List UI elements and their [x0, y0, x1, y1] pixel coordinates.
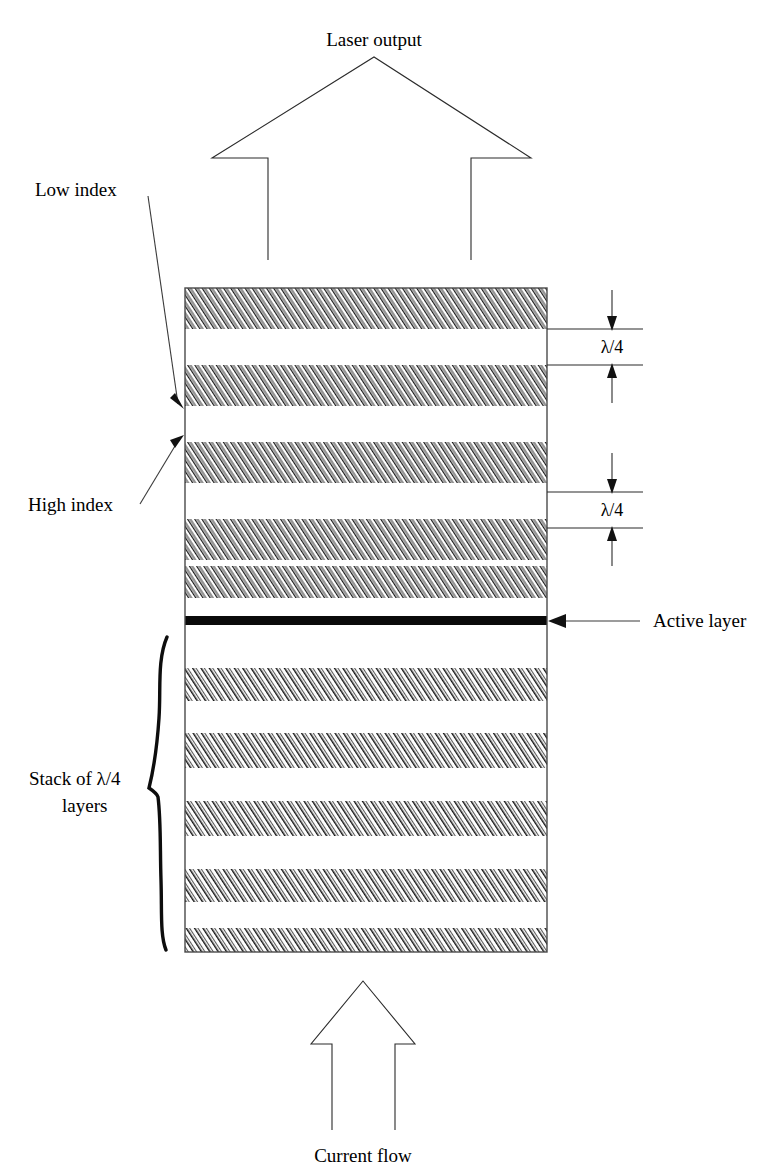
- layer-low-index: [185, 768, 547, 801]
- high-index-leader: [140, 435, 184, 504]
- low-index-leader: [148, 196, 184, 409]
- high-index-label: High index: [28, 494, 113, 515]
- lambda-quarter-dimension-bottom: λ/4: [547, 453, 643, 566]
- lambda-quarter-bottom-text: λ/4: [601, 500, 624, 520]
- layer-high-index: [185, 801, 547, 836]
- laser-output-label: Laser output: [326, 29, 422, 50]
- layer-low-index: [185, 625, 547, 668]
- stack-brace: [149, 637, 167, 950]
- layer-low-index: [185, 406, 547, 442]
- layer-low-index: [185, 836, 547, 869]
- layer-low-index: [185, 902, 547, 928]
- stack-label-line1: Stack of λ/4: [29, 768, 121, 789]
- layer-low-index: [185, 701, 547, 733]
- lambda-quarter-dimension-top: λ/4: [547, 290, 643, 403]
- mirror-stack: [185, 288, 547, 952]
- laser-output-arrow: [212, 57, 531, 260]
- layer-low-index: [185, 598, 547, 616]
- lambda-quarter-top-text: λ/4: [601, 337, 624, 357]
- layer-high-index: [185, 566, 547, 598]
- layer-high-index: [185, 519, 547, 560]
- active-layer-bar: [185, 616, 547, 625]
- dbr-laser-diagram: Laser output: [0, 0, 783, 1175]
- diagram-root: Laser output: [0, 0, 783, 1175]
- layer-high-index: [185, 365, 547, 406]
- layer-high-index: [185, 442, 547, 483]
- layer-high-index: [185, 288, 547, 329]
- active-layer-label: Active layer: [653, 610, 747, 631]
- layer-high-index: [185, 869, 547, 902]
- low-index-label: Low index: [35, 179, 117, 200]
- layer-high-index: [185, 928, 547, 952]
- layer-low-index: [185, 329, 547, 365]
- layer-low-index: [185, 483, 547, 519]
- stack-label-line2: layers: [62, 795, 107, 816]
- layer-high-index: [185, 668, 547, 701]
- current-flow-label: Current flow: [314, 1145, 412, 1166]
- layer-high-index: [185, 733, 547, 768]
- current-flow-arrow: [311, 981, 415, 1130]
- active-layer-leader: [548, 614, 640, 628]
